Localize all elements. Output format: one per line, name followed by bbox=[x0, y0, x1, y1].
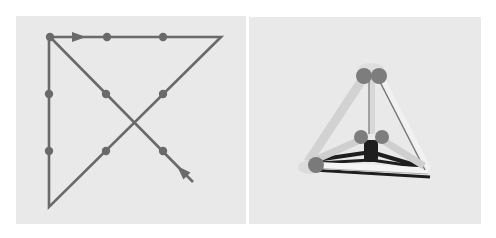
bottom-left-node bbox=[298, 157, 324, 174]
middle-node-left bbox=[354, 130, 368, 144]
middle-node-right bbox=[375, 130, 389, 144]
tetrahedron-model bbox=[0, 0, 496, 238]
